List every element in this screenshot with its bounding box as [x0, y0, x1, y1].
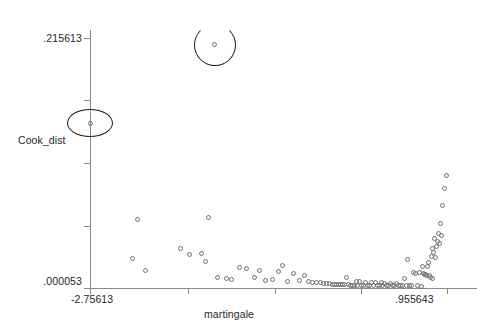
annotation-layer — [0, 0, 477, 332]
scatter-plot-figure: .215613 .000053 Cook_dist -2.75613 .9556… — [0, 0, 477, 332]
outlier-circle-left-annotation — [67, 109, 113, 137]
outlier-circle-high-annotation — [194, 24, 236, 66]
